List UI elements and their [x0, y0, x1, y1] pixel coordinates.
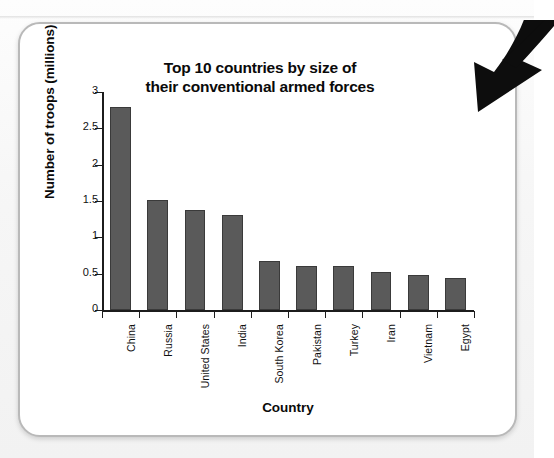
- bar: [333, 266, 354, 310]
- plot-area: 00.511.522.53 ChinaRussiaUnited StatesIn…: [102, 92, 474, 310]
- x-axis-category-label: Vietnam: [422, 324, 434, 363]
- bar: [408, 275, 429, 310]
- bar: [259, 261, 280, 310]
- y-axis-tick-label: 0: [92, 302, 98, 314]
- bar: [185, 210, 206, 310]
- y-axis-title: Number of troops (millions): [42, 25, 57, 199]
- y-axis-line: [102, 92, 104, 311]
- bar: [296, 266, 317, 310]
- figure-card: Top 10 countries by size of their conven…: [18, 22, 517, 437]
- x-axis-category-label: Russia: [162, 324, 174, 357]
- y-axis-tick-label: 1.5: [83, 193, 98, 205]
- x-axis-category-label: Turkey: [348, 324, 360, 356]
- x-axis-tick: [474, 311, 475, 318]
- x-axis-tick: [325, 311, 326, 318]
- x-axis-tick: [214, 311, 215, 318]
- x-axis-tick: [288, 311, 289, 318]
- x-axis-tick: [176, 311, 177, 318]
- x-axis-category-label: Egypt: [459, 324, 471, 351]
- x-axis-category-label: South Korea: [273, 324, 285, 383]
- chart-title: Top 10 countries by size of their conven…: [80, 58, 440, 97]
- x-axis-title: Country: [102, 400, 474, 415]
- y-axis-tick-label: 2: [92, 157, 98, 169]
- x-axis-tick: [251, 311, 252, 318]
- y-axis-tick-label: 2.5: [83, 120, 98, 132]
- x-axis-tick: [437, 311, 438, 318]
- bar: [222, 215, 243, 310]
- x-axis-tick: [139, 311, 140, 318]
- x-axis-category-label: Iran: [385, 324, 397, 343]
- bar-chart: Top 10 countries by size of their conven…: [20, 24, 519, 439]
- bar: [371, 272, 392, 310]
- x-axis-category-label: United States: [199, 324, 211, 388]
- chart-title-line-1: Top 10 countries by size of: [80, 58, 440, 77]
- x-axis-tick: [400, 311, 401, 318]
- x-axis-tick: [102, 311, 103, 318]
- y-axis-tick-label: 1: [92, 229, 98, 241]
- x-axis-category-label: China: [125, 324, 137, 352]
- x-axis-tick: [362, 311, 363, 318]
- bar: [110, 107, 131, 310]
- bar: [445, 278, 466, 310]
- bar: [147, 200, 168, 310]
- y-axis-tick-label: 0.5: [83, 266, 98, 278]
- x-axis-category-label: India: [236, 324, 248, 347]
- x-axis-category-label: Pakistan: [311, 324, 323, 365]
- y-axis-tick-label: 3: [92, 84, 98, 96]
